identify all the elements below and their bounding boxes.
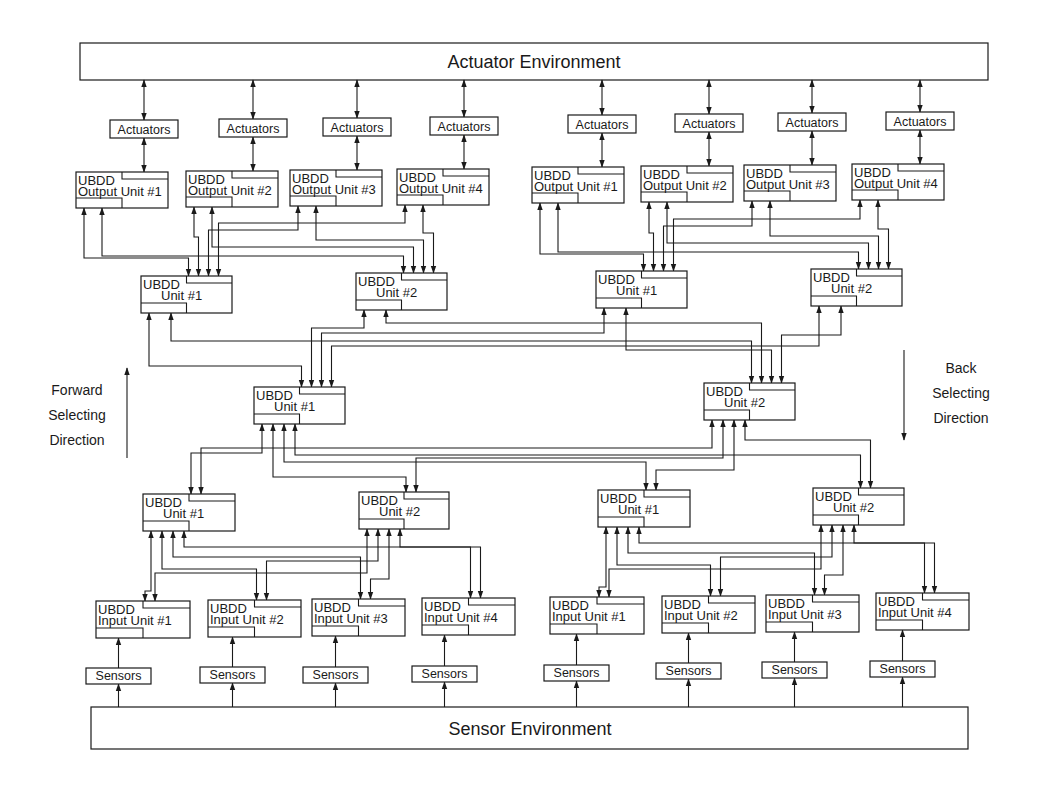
ubdd-network-diagram: Actuator Environment Sensor Environment … (0, 0, 1040, 794)
unit-name: Input Unit #2 (210, 612, 284, 627)
connection-wire (149, 313, 302, 387)
connection-wire (162, 531, 257, 600)
connection-wire (284, 424, 646, 490)
unit-name: Output Unit #3 (746, 177, 830, 192)
back-label-line-3: Direction (933, 410, 988, 426)
ubdd-input-unit: UBDDInput Unit #1 (550, 597, 644, 634)
connection-wire (332, 306, 820, 387)
connection-wire (267, 529, 379, 600)
connection-wire (371, 529, 390, 599)
unit-name: Output Unit #3 (292, 182, 376, 197)
back-label-line-2: Selecting (932, 385, 990, 401)
ubdd-output-unit: UBDDOutput Unit #2 (641, 166, 733, 202)
connection-wire (878, 200, 889, 269)
ubdd-upper-unit: UBDDUnit #1 (596, 271, 687, 308)
unit-name: Unit #1 (616, 283, 657, 298)
sensors-box: Sensors (86, 668, 151, 684)
sensors-label: Sensors (422, 667, 468, 681)
connection-wire (617, 527, 711, 596)
connection-wire (184, 531, 471, 598)
sensors-box: Sensors (762, 662, 827, 678)
connection-wire (416, 420, 723, 492)
ubdd-input-unit: UBDDInput Unit #1 (96, 601, 190, 638)
ubdd-input-unit: UBDDInput Unit #3 (766, 595, 859, 632)
connection-wire (194, 207, 199, 276)
sensors-label: Sensors (96, 669, 142, 683)
unit-name: Input Unit #4 (424, 610, 498, 625)
connection-wire (145, 531, 151, 601)
actuators-label: Actuators (118, 123, 171, 137)
connection-wire (599, 527, 606, 597)
actuators-label: Actuators (438, 120, 491, 134)
connection-wire (649, 202, 654, 271)
connection-wire (209, 206, 299, 276)
unit-name: Unit #2 (724, 395, 765, 410)
connection-wire (854, 525, 935, 593)
unit-name: Input Unit #3 (768, 607, 842, 622)
sensor-environment: Sensor Environment (91, 707, 968, 749)
sensors-box: Sensors (200, 667, 265, 683)
connection-wire (155, 529, 367, 601)
actuators-box: Actuators (219, 119, 287, 137)
actuators-label: Actuators (227, 122, 280, 136)
actuators-box: Actuators (675, 114, 743, 132)
actuators-box: Actuators (886, 112, 954, 130)
connection-wire (782, 306, 842, 383)
connection-wire (84, 208, 189, 276)
actuators-label: Actuators (786, 116, 839, 130)
actuators-box: Actuators (110, 120, 178, 138)
unit-name: Output Unit #1 (534, 179, 618, 194)
forward-selecting-direction: Forward Selecting Direction (48, 368, 127, 458)
sensors-label: Sensors (880, 662, 926, 676)
ubdd-middle-unit: UBDDUnit #1 (254, 387, 345, 424)
unit-name: Input Unit #4 (878, 605, 952, 620)
actuators-box: Actuators (323, 118, 391, 136)
unit-name: Unit #2 (376, 285, 417, 300)
sensors-box: Sensors (870, 661, 935, 677)
unit-name: Output Unit #4 (854, 176, 938, 191)
unit-name: Output Unit #1 (78, 184, 162, 199)
ubdd-upper-unit: UBDDUnit #2 (811, 269, 902, 306)
forward-label-line-1: Forward (51, 382, 102, 398)
connection-wire (201, 420, 712, 494)
unit-name: Output Unit #4 (399, 181, 483, 196)
unit-name: Unit #1 (163, 506, 204, 521)
ubdd-input-unit: UBDDInput Unit #2 (662, 596, 755, 633)
sensors-label: Sensors (772, 663, 818, 677)
sensors-box: Sensors (303, 667, 368, 683)
ubdd-input-unit: UBDDInput Unit #3 (312, 599, 405, 636)
actuator-boxes: ActuatorsActuatorsActuatorsActuatorsActu… (110, 112, 954, 138)
actuators-box: Actuators (778, 113, 846, 131)
connection-wire (664, 201, 753, 271)
connection-wire (639, 527, 925, 593)
back-selecting-direction: Back Selecting Direction (904, 350, 990, 440)
unit-name: Input Unit #2 (664, 608, 738, 623)
ubdd-lower-unit: UBDDUnit #1 (143, 494, 235, 531)
ubdd-input-unit: UBDDInput Unit #4 (422, 598, 515, 635)
ubdd-upper-unit: UBDDUnit #1 (141, 276, 232, 313)
ubdd-output-unit: UBDDOutput Unit #4 (397, 169, 489, 205)
connection-wire (540, 203, 644, 271)
actuator-environment: Actuator Environment (80, 43, 988, 80)
ubdd-output-unit: UBDDOutput Unit #1 (76, 172, 168, 208)
sensors-label: Sensors (554, 666, 600, 680)
actuators-label: Actuators (683, 117, 736, 131)
sensors-box: Sensors (412, 666, 477, 682)
ubdd-output-unit: UBDDOutput Unit #3 (290, 170, 382, 206)
ubdd-upper-unit: UBDDUnit #2 (356, 273, 447, 310)
connection-wire (295, 424, 861, 488)
ubdd-output-unit: UBDDOutput Unit #4 (852, 164, 944, 200)
sensors-label: Sensors (666, 664, 712, 678)
ubdd-unit-boxes: UBDDOutput Unit #1UBDDOutput Unit #2UBDD… (76, 164, 969, 638)
connection-wire (191, 424, 262, 494)
connection-wire (312, 310, 365, 387)
unit-name: Unit #2 (833, 500, 874, 515)
connection-wire (273, 424, 406, 492)
forward-label-line-3: Direction (49, 432, 104, 448)
unit-name: Unit #1 (274, 399, 315, 414)
ubdd-input-unit: UBDDInput Unit #4 (876, 593, 969, 630)
ubdd-lower-unit: UBDDUnit #1 (598, 490, 690, 527)
unit-name: Input Unit #3 (314, 611, 388, 626)
back-label-line-1: Back (945, 360, 977, 376)
unit-name: Unit #2 (379, 504, 420, 519)
